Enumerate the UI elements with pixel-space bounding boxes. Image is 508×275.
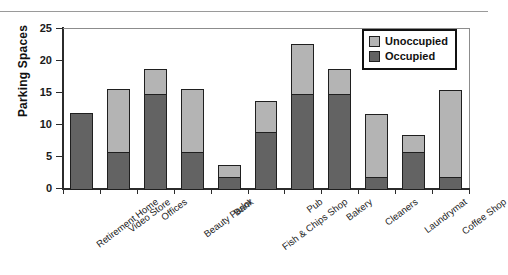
- x-category-label: Retirement Home: [94, 196, 160, 250]
- legend-item-unoccupied: Unoccupied: [369, 34, 448, 49]
- bar-segment-occupied: [439, 177, 462, 190]
- y-tick-label: 25: [0, 23, 52, 34]
- cropped-title-artifact: [0, 0, 488, 10]
- chart-legend: Unoccupied Occupied: [362, 29, 457, 70]
- bar-segment-unoccupied: [365, 114, 388, 178]
- bar-stack: [70, 113, 93, 189]
- bar-segment-unoccupied: [181, 89, 204, 153]
- bar-stack: [107, 89, 130, 189]
- cropped-caption-artifact: [8, 258, 478, 268]
- bar-segment-occupied: [70, 113, 93, 190]
- bar-stack: [181, 89, 204, 189]
- bar-stack: [144, 69, 167, 189]
- bar-segment-occupied: [218, 177, 241, 190]
- bar-stack: [218, 165, 241, 189]
- bar-group: [218, 29, 241, 189]
- bar-group: [70, 29, 93, 189]
- bar-stack: [439, 90, 462, 189]
- bar-segment-occupied: [291, 94, 314, 190]
- bar-segment-unoccupied: [402, 135, 425, 153]
- bar-segment-occupied: [181, 152, 204, 190]
- x-tick-mark: [100, 188, 101, 194]
- bar-group: [181, 29, 204, 189]
- bar-stack: [365, 114, 388, 189]
- legend-label-occupied: Occupied: [385, 51, 435, 62]
- bar-segment-unoccupied: [439, 90, 462, 178]
- x-tick-mark: [395, 188, 396, 194]
- x-tick-mark: [432, 188, 433, 194]
- bar-segment-occupied: [107, 152, 130, 190]
- bar-stack: [328, 69, 351, 189]
- x-category-label: Bakery: [344, 196, 374, 223]
- x-tick-mark: [469, 188, 470, 194]
- bar-group: [328, 29, 351, 189]
- bar-stack: [255, 101, 278, 189]
- bar-segment-unoccupied: [255, 101, 278, 133]
- bar-stack: [402, 135, 425, 189]
- bar-stack: [291, 44, 314, 189]
- bar-group: [255, 29, 278, 189]
- legend-swatch-occupied-icon: [369, 51, 380, 62]
- legend-swatch-unoccupied-icon: [369, 36, 380, 47]
- x-category-label: Bank: [231, 196, 255, 218]
- bar-segment-occupied: [402, 152, 425, 190]
- bar-segment-unoccupied: [144, 69, 167, 95]
- x-tick-mark: [63, 188, 64, 194]
- x-tick-mark: [358, 188, 359, 194]
- bar-segment-unoccupied: [107, 89, 130, 153]
- bar-group: [144, 29, 167, 189]
- bar-segment-occupied: [328, 94, 351, 190]
- legend-label-unoccupied: Unoccupied: [385, 36, 448, 47]
- x-tick-mark: [284, 188, 285, 194]
- y-tick-label: 15: [0, 87, 52, 98]
- y-tick-label: 5: [0, 151, 52, 162]
- bar-segment-occupied: [365, 177, 388, 190]
- bar-segment-occupied: [255, 132, 278, 190]
- bar-segment-occupied: [144, 94, 167, 190]
- figure-top-border: [0, 11, 488, 12]
- bar-segment-unoccupied: [291, 44, 314, 95]
- bar-segment-unoccupied: [328, 69, 351, 95]
- bar-group: [291, 29, 314, 189]
- x-tick-mark: [174, 188, 175, 194]
- x-tick-mark: [137, 188, 138, 194]
- x-tick-mark: [211, 188, 212, 194]
- x-tick-mark: [248, 188, 249, 194]
- x-category-label: Cleaners: [382, 196, 419, 228]
- x-tick-mark: [321, 188, 322, 194]
- bar-group: [107, 29, 130, 189]
- legend-item-occupied: Occupied: [369, 49, 448, 64]
- y-tick-label: 10: [0, 119, 52, 130]
- y-tick-label: 20: [0, 55, 52, 66]
- y-tick-label: 0: [0, 183, 52, 194]
